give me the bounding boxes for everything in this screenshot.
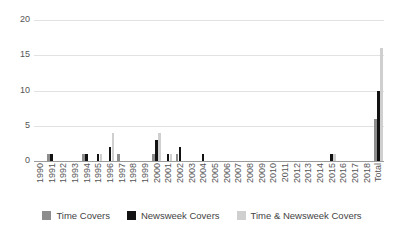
bar-group [104, 20, 116, 161]
x-tick-1995: 1995 [92, 163, 104, 205]
bar-group [279, 20, 291, 161]
x-tick-1997: 1997 [116, 163, 128, 205]
x-tick-label: 2012 [292, 163, 301, 183]
bar-group [349, 20, 361, 161]
x-tick-label: 1994 [82, 163, 91, 183]
bar-group [34, 20, 46, 161]
bar [50, 154, 52, 161]
x-tick-2009: 2009 [256, 163, 268, 205]
legend-swatch-icon [237, 211, 246, 220]
x-tick-2004: 2004 [197, 163, 209, 205]
bar-group [197, 20, 209, 161]
bar-group [116, 20, 128, 161]
plot-area [34, 20, 384, 161]
y-tick-label-20: 20 [2, 15, 30, 24]
bar-group [151, 20, 163, 161]
bar [85, 154, 87, 161]
x-tick-label: 2000 [152, 163, 161, 183]
bar [100, 154, 102, 161]
x-tick-label: 2001 [164, 163, 173, 183]
x-tick-2001: 2001 [162, 163, 174, 205]
y-tick-label-5: 5 [2, 121, 30, 130]
x-tick-1998: 1998 [127, 163, 139, 205]
x-tick-label: 2009 [257, 163, 266, 183]
legend-label: Time & Newsweek Covers [251, 210, 362, 221]
bar-group [139, 20, 151, 161]
x-tick-label: 2011 [280, 163, 289, 182]
y-tick-label-10: 10 [2, 86, 30, 95]
x-tick-1996: 1996 [104, 163, 116, 205]
bar [112, 133, 114, 161]
bar-groups [34, 20, 384, 161]
x-tick-label: 2015 [327, 163, 336, 183]
x-tick-2010: 2010 [267, 163, 279, 205]
x-tick-2011: 2011 [279, 163, 291, 205]
bar [158, 133, 160, 161]
x-tick-1990: 1990 [34, 163, 46, 205]
legend-label: Time Covers [56, 210, 110, 221]
bar-group [209, 20, 221, 161]
x-tick-2002: 2002 [174, 163, 186, 205]
x-tick-label: 1998 [129, 163, 138, 183]
x-tick-1993: 1993 [69, 163, 81, 205]
x-tick-label: 1996 [105, 163, 114, 183]
bar-group [267, 20, 279, 161]
bar [117, 154, 119, 161]
x-tick-2000: 2000 [151, 163, 163, 205]
chart-legend: Time CoversNewsweek CoversTime & Newswee… [0, 210, 404, 221]
x-tick-label: 1997 [117, 163, 126, 183]
x-tick-label: 2013 [304, 163, 313, 183]
x-tick-2003: 2003 [186, 163, 198, 205]
gridline-0 [34, 161, 384, 162]
x-tick-1994: 1994 [81, 163, 93, 205]
bar-group [337, 20, 349, 161]
legend-item-time[interactable]: Time Covers [42, 210, 110, 221]
bar-group [372, 20, 384, 161]
x-tick-label: 2005 [210, 163, 219, 183]
x-tick-2008: 2008 [244, 163, 256, 205]
x-tick-2016: 2016 [337, 163, 349, 205]
x-tick-2017: 2017 [349, 163, 361, 205]
x-tick-label: 2017 [350, 163, 359, 183]
x-tick-label: 2002 [175, 163, 184, 183]
bar [179, 147, 181, 161]
x-tick-label: 2007 [234, 163, 243, 183]
x-tick-label: 1992 [59, 163, 68, 183]
bar-group [162, 20, 174, 161]
x-tick-2018: 2018 [361, 163, 373, 205]
x-tick-label: 1990 [35, 163, 44, 183]
bar-group [92, 20, 104, 161]
bar-group [232, 20, 244, 161]
x-tick-label: 2003 [187, 163, 196, 183]
bar [170, 154, 172, 161]
legend-label: Newsweek Covers [141, 210, 220, 221]
x-tick-label: 2018 [362, 163, 371, 183]
x-tick-label: Total [374, 163, 383, 182]
x-tick-label: 2006 [222, 163, 231, 183]
x-tick-Total: Total [372, 163, 384, 205]
x-tick-2006: 2006 [221, 163, 233, 205]
y-tick-label-0: 0 [2, 156, 30, 165]
x-axis: 1990199119921993199419951996199719981999… [34, 163, 384, 205]
x-tick-1992: 1992 [57, 163, 69, 205]
y-tick-label-15: 15 [2, 50, 30, 59]
bar-group [127, 20, 139, 161]
bar-group [186, 20, 198, 161]
x-tick-2005: 2005 [209, 163, 221, 205]
x-tick-label: 2010 [269, 163, 278, 183]
bar-group [256, 20, 268, 161]
x-tick-label: 2004 [199, 163, 208, 183]
x-tick-2013: 2013 [302, 163, 314, 205]
bar-group [244, 20, 256, 161]
legend-item-both[interactable]: Time & Newsweek Covers [237, 210, 362, 221]
bar-group [326, 20, 338, 161]
x-tick-1999: 1999 [139, 163, 151, 205]
legend-item-newsweek[interactable]: Newsweek Covers [127, 210, 220, 221]
x-tick-label: 1991 [47, 163, 56, 183]
bar-group [57, 20, 69, 161]
bar [380, 48, 382, 161]
x-tick-2014: 2014 [314, 163, 326, 205]
bar-group [291, 20, 303, 161]
x-tick-1991: 1991 [46, 163, 58, 205]
bar-chart: 05101520 1990199119921993199419951996199… [0, 0, 404, 236]
